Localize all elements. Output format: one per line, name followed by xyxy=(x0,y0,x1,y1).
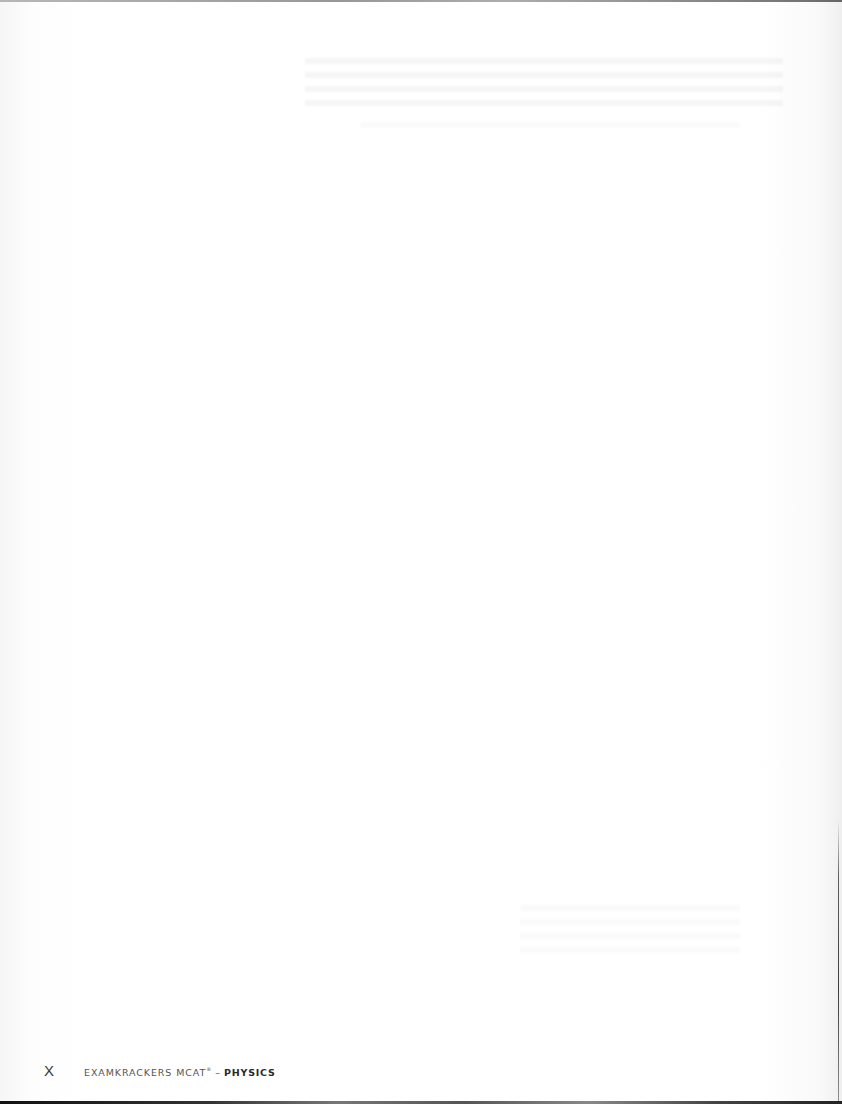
book-title: EXAMKRACKERS MCAT xyxy=(84,1067,206,1078)
scan-edge-top xyxy=(0,0,842,2)
bleed-through-header xyxy=(305,58,783,108)
subject-label: PHYSICS xyxy=(224,1067,276,1078)
title-separator: – xyxy=(215,1067,220,1078)
registered-mark: ® xyxy=(206,1066,211,1072)
running-title: EXAMKRACKERS MCAT® xyxy=(84,1066,211,1078)
bleed-through-caption xyxy=(520,905,740,955)
bleed-through-subheader xyxy=(360,122,740,136)
scan-edge-right xyxy=(838,820,839,1104)
page-footer: X EXAMKRACKERS MCAT® – PHYSICS xyxy=(44,1062,276,1079)
page-number: X xyxy=(44,1062,84,1079)
blank-book-page: X EXAMKRACKERS MCAT® – PHYSICS xyxy=(0,0,842,1104)
